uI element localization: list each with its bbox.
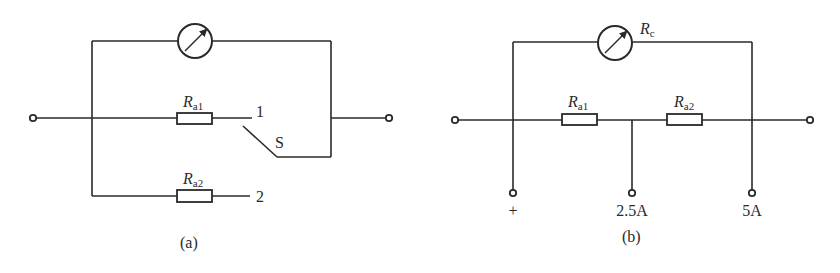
switch-label: S [275, 134, 284, 151]
caption-b: (b) [622, 228, 641, 246]
resistor-ra2-label: Ra2 [673, 93, 694, 112]
terminal-5a-label: 5A [742, 202, 762, 219]
contact-2-label: 2 [256, 188, 264, 205]
resistor-ra1-label: Ra1 [567, 93, 588, 112]
terminal-right [386, 115, 392, 121]
terminal-2-5a [629, 190, 635, 196]
terminal-left [30, 115, 36, 121]
contact-1-label: 1 [256, 103, 264, 120]
switch-s [243, 126, 277, 157]
resistor-ra1-label: Ra1 [182, 93, 203, 112]
resistor-ra1 [562, 114, 597, 125]
terminal-left [452, 117, 458, 123]
terminal-plus [510, 190, 516, 196]
figure-a: Ra1 1 S Ra2 2 (a) [30, 24, 392, 252]
meter-rc-label: Rc [639, 20, 655, 39]
resistor-ra2 [667, 114, 702, 125]
galvanometer-icon [178, 24, 212, 58]
resistor-ra2-label: Ra2 [182, 170, 203, 189]
resistor-ra1 [177, 113, 212, 124]
galvanometer-icon [598, 26, 632, 60]
terminal-5a [749, 190, 755, 196]
terminal-2-5a-label: 2.5A [616, 202, 648, 219]
caption-a: (a) [180, 234, 198, 252]
terminal-right [807, 117, 813, 123]
resistor-ra2 [177, 190, 212, 202]
circuit-diagram: Ra1 1 S Ra2 2 (a) Rc [0, 0, 840, 273]
terminal-plus-label: + [508, 202, 517, 219]
figure-b: Rc Ra1 Ra2 + 2.5A 5A (b) [452, 20, 813, 246]
